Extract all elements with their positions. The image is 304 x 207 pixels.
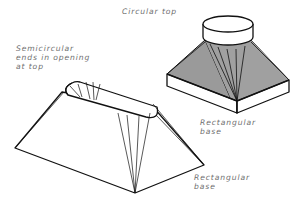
circular-to-rectangular-transition — [167, 16, 289, 113]
semicircular-to-rectangular-transition — [15, 82, 204, 193]
label-circular-top: Circular top — [122, 7, 177, 16]
label-semicircular-line1: Semicircular — [16, 44, 90, 53]
label-semicircular-line2: ends in opening — [16, 53, 90, 62]
label-rect-base-left-line1: Rectangular — [194, 173, 250, 182]
transition-pieces-drawing — [0, 0, 304, 207]
label-rect-base-right-line1: Rectangular — [200, 118, 256, 127]
label-semicircular-line3: at top — [16, 62, 90, 71]
cylinder-top — [203, 16, 253, 32]
label-semicircular-ends: Semicircular ends in opening at top — [16, 44, 90, 72]
label-rect-base-right-line2: base — [200, 127, 256, 136]
label-rectangular-base-left: Rectangular base — [194, 173, 250, 191]
label-rectangular-base-right: Rectangular base — [200, 118, 256, 136]
label-rect-base-left-line2: base — [194, 182, 250, 191]
